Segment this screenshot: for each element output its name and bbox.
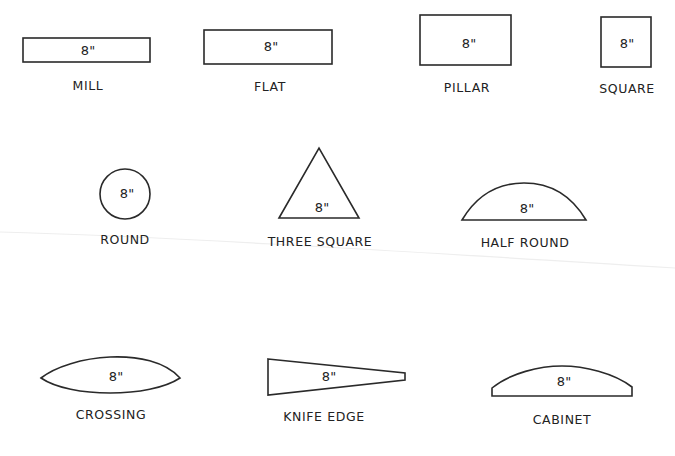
crossing-dimension: 8" bbox=[109, 369, 123, 384]
knife-edge-label: KNIFE EDGE bbox=[283, 409, 364, 424]
round-label: ROUND bbox=[100, 232, 150, 247]
pillar-label: PILLAR bbox=[444, 80, 490, 95]
knife-edge-cross-section bbox=[268, 359, 405, 395]
square-label: SQUARE bbox=[599, 81, 655, 96]
half-round-dimension: 8" bbox=[520, 201, 534, 216]
knife-edge-dimension: 8" bbox=[322, 369, 336, 384]
file-shapes-diagram: 8" MILL 8" FLAT 8" PILLAR 8" SQUARE 8" R… bbox=[0, 0, 675, 456]
round-dimension: 8" bbox=[120, 186, 134, 201]
half-round-label: HALF ROUND bbox=[481, 235, 570, 250]
three-square-label: THREE SQUARE bbox=[267, 234, 373, 249]
file-mill: 8" MILL bbox=[23, 38, 150, 93]
file-half-round: 8" HALF ROUND bbox=[462, 183, 586, 250]
mill-dimension: 8" bbox=[81, 43, 95, 58]
file-three-square: 8" THREE SQUARE bbox=[267, 148, 373, 249]
mill-label: MILL bbox=[73, 78, 104, 93]
file-round: 8" ROUND bbox=[100, 169, 150, 247]
crossing-label: CROSSING bbox=[76, 407, 147, 422]
cabinet-dimension: 8" bbox=[557, 374, 571, 389]
flat-dimension: 8" bbox=[264, 39, 278, 54]
file-flat: 8" FLAT bbox=[204, 30, 332, 94]
square-dimension: 8" bbox=[620, 36, 634, 51]
file-knife-edge: 8" KNIFE EDGE bbox=[268, 359, 405, 424]
file-cabinet: 8" CABINET bbox=[492, 366, 632, 427]
file-crossing: 8" CROSSING bbox=[41, 357, 180, 422]
cabinet-label: CABINET bbox=[533, 412, 592, 427]
three-square-dimension: 8" bbox=[315, 200, 329, 215]
flat-label: FLAT bbox=[254, 79, 286, 94]
file-pillar: 8" PILLAR bbox=[420, 15, 511, 95]
file-square: 8" SQUARE bbox=[599, 17, 655, 96]
pillar-dimension: 8" bbox=[462, 36, 476, 51]
